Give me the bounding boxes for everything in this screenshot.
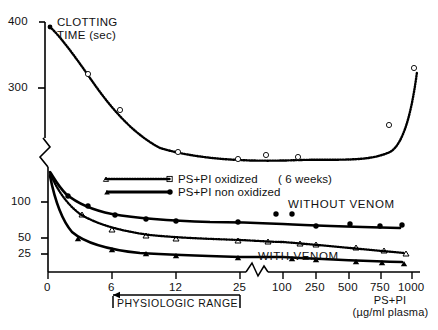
y-axis-title-line2: TIME (sec) [57, 29, 116, 41]
x-tick-label-1000: 1000 [398, 281, 424, 293]
annotation-with-venom: WITH VENOM [258, 250, 339, 262]
annotation-without-venom: WITHOUT VENOM [288, 198, 395, 210]
y-axis-break [40, 138, 50, 167]
legend-label-oxidized: PS+PI oxidized [178, 173, 258, 185]
x-tick-label-100: 100 [272, 281, 292, 293]
x-tick-label-0: 0 [44, 281, 51, 293]
annotation-physiologic-range: PHYSIOLOGIC RANGE [117, 298, 238, 309]
x-tick-label-250: 250 [305, 281, 325, 293]
x-tick-label-500: 500 [338, 281, 358, 293]
y-tick-label-400: 400 [8, 15, 28, 27]
x-axis-break [246, 263, 268, 276]
y-axis-title-line1: CLOTTING [57, 16, 118, 28]
clotting-time-figure: CLOTTING TIME (sec) 400 300 100 50 25 0 … [0, 0, 438, 330]
x-tick-label-25: 25 [233, 281, 246, 293]
legend-swatch-non-oxidized [104, 189, 172, 194]
legend-note-weeks: ( 6 weeks) [278, 173, 332, 185]
series-oxidized-without-venom-origin-marker [48, 25, 53, 30]
series-oxidized-without-venom-line [50, 27, 417, 161]
y-tick-label-50: 50 [18, 231, 31, 243]
legend-swatch-oxidized [103, 176, 172, 181]
y-tick-label-100: 100 [11, 195, 31, 207]
x-axis-title-line1: PS+PI [355, 295, 425, 307]
legend-label-non-oxidized: PS+PI non oxidized [178, 186, 281, 198]
x-tick-label-750: 750 [370, 281, 390, 293]
y-tick-label-300: 300 [8, 81, 28, 93]
y-tick-label-25: 25 [18, 247, 31, 259]
x-tick-label-12: 12 [169, 281, 182, 293]
series-oxidized-without-venom-markers [85, 65, 416, 161]
x-tick-label-6: 6 [108, 281, 115, 293]
x-axis-title-line2: (µg/ml plasma) [343, 307, 438, 319]
